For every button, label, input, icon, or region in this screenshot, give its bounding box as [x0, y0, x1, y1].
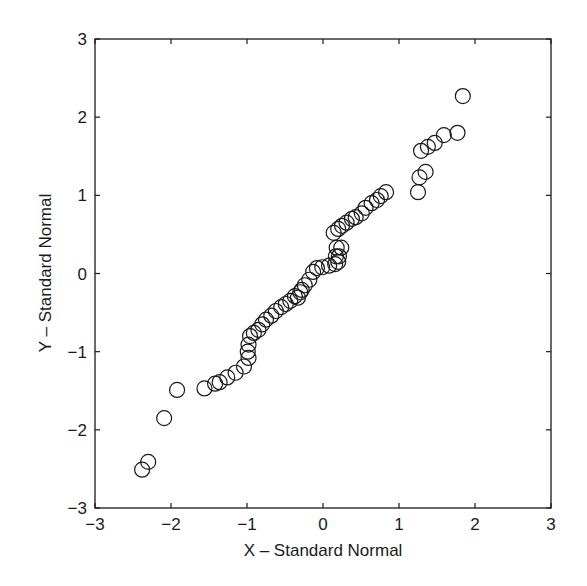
plot-area [95, 39, 551, 508]
scatter-chart: −3−2−10123 −3−2−10123 X – Standard Norma… [0, 0, 587, 586]
y-tick-label: 0 [78, 265, 87, 284]
x-axis-title: X – Standard Normal [244, 541, 403, 560]
y-axis-title: Y – Standard Normal [36, 194, 55, 352]
x-tick-label: 3 [546, 515, 555, 534]
y-tick-label: −2 [68, 421, 87, 440]
x-tick-label: −1 [237, 515, 256, 534]
y-tick-label: −3 [68, 499, 87, 518]
x-tick-label: −2 [161, 515, 180, 534]
y-tick-label: 2 [78, 108, 87, 127]
y-tick-label: 3 [78, 30, 87, 49]
y-tick-label: −1 [68, 343, 87, 362]
y-tick-labels: −3−2−10123 [68, 30, 87, 518]
y-tick-label: 1 [78, 186, 87, 205]
x-tick-label: 1 [394, 515, 403, 534]
x-tick-label: 0 [318, 515, 327, 534]
x-tick-labels: −3−2−10123 [85, 515, 555, 534]
x-tick-label: −3 [85, 515, 104, 534]
x-tick-label: 2 [470, 515, 479, 534]
